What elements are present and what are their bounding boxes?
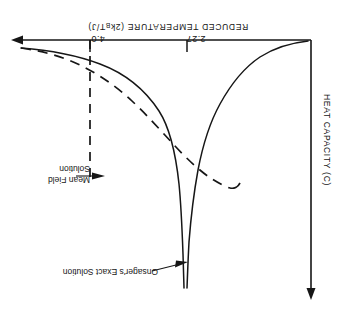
x-tick-label-4-0: 4.0 (78, 34, 118, 44)
x-axis-title-head: REDUCED TEMPERATURE (2k (110, 22, 248, 32)
mean-field-leader-arrowhead-icon (92, 173, 105, 180)
x-tick-label-2-27: 2.27 (174, 34, 218, 44)
x-axis-title-tail: T/J) (88, 22, 105, 32)
annotation-mean-field-line-1: Mean Field (20, 175, 90, 186)
mean-field-jump-segment (230, 183, 240, 188)
annotation-mean-field-solution: Mean Field Solution (20, 164, 90, 185)
y-axis-title: HEAT CAPACITY (C) (322, 80, 332, 200)
x-axis-title-subscript: B (105, 22, 110, 29)
onsager-leader-arrowhead-icon (175, 261, 188, 268)
onsager-curve-low-temperature-branch (187, 41, 308, 288)
x-axis-arrowhead-icon (11, 36, 23, 45)
y-axis-arrowhead-icon (307, 288, 316, 300)
x-axis (11, 36, 311, 45)
x-axis-title: REDUCED TEMPERATURE (2kBT/J) (80, 22, 256, 32)
rotated-plate: REDUCED TEMPERATURE (2kBT/J) HEAT CAPACI… (0, 0, 348, 316)
annotation-mean-field-line-2: Solution (20, 164, 90, 175)
figure-panel: REDUCED TEMPERATURE (2kBT/J) HEAT CAPACI… (0, 0, 348, 316)
annotation-onsagers-exact-solution: Onsager's Exact Solution (38, 267, 158, 278)
y-axis (307, 40, 316, 300)
